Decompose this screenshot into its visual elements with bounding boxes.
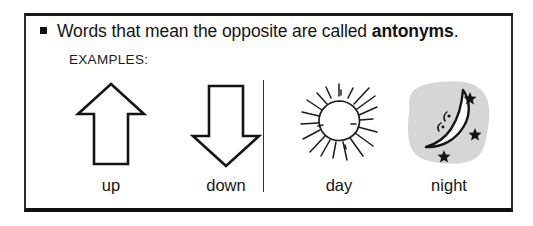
headline-bold-term: antonyms <box>372 21 454 41</box>
example-cell-down: down <box>171 76 281 204</box>
example-caption-night: night <box>394 176 504 195</box>
vertical-divider <box>263 80 264 192</box>
square-bullet-icon <box>40 27 47 34</box>
example-cell-day: day <box>284 76 394 204</box>
examples-label: EXAMPLES: <box>69 52 148 67</box>
example-cell-night: night <box>394 76 504 204</box>
example-cell-up: up <box>56 76 166 204</box>
crescent-moon-with-stars-icon <box>394 76 504 174</box>
headline-row: Words that mean the opposite are called … <box>40 23 503 41</box>
headline-period: . <box>454 21 459 41</box>
antonyms-panel: Words that mean the opposite are called … <box>24 13 513 212</box>
example-caption-down: down <box>171 176 281 195</box>
example-caption-day: day <box>284 176 394 195</box>
example-caption-up: up <box>56 176 166 195</box>
sun-icon <box>284 76 394 174</box>
up-arrow-icon <box>56 76 166 174</box>
headline-text: Words that mean the opposite are called … <box>57 23 458 41</box>
down-arrow-icon <box>171 76 281 174</box>
headline-plain-text: Words that mean the opposite are called <box>57 21 372 41</box>
